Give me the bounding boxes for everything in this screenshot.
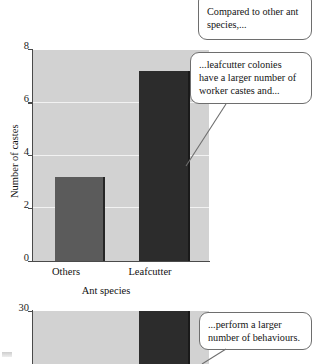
- ytick-label-2: 2: [24, 200, 29, 211]
- callout-behaviours-line-2: number of behaviours.: [208, 331, 304, 344]
- callout-behaviours-tail: [188, 348, 228, 364]
- behaviours-chart: 30: [0, 300, 212, 364]
- cropped-label-fragment: [2, 352, 12, 357]
- ytick-label-4: 4: [24, 147, 29, 158]
- callout-worker-castes: ...leafcutter colonies have a larger num…: [190, 52, 312, 104]
- behaviours-plot-area: [33, 311, 209, 364]
- callout-behaviours-line-1: ...perform a larger: [208, 318, 304, 331]
- callout-worker-castes-line-3: worker castes and...: [199, 84, 304, 97]
- callout-worker-castes-line-1: ...leafcutter colonies: [199, 58, 304, 71]
- callout-compared-line-1: Compared to other ant: [207, 5, 304, 18]
- callout-compared: Compared to other ant species,...: [198, 0, 312, 40]
- callout-worker-castes-tail: [178, 102, 228, 170]
- bar-leafcutter-behaviours: [139, 311, 190, 364]
- behaviours-y-axis: 30: [32, 310, 33, 364]
- callout-compared-line-2: species,...: [207, 18, 304, 31]
- castes-y-axis-title: Number of castes: [9, 125, 20, 198]
- ytick-label-30: 30: [19, 303, 30, 314]
- callout-behaviours: ...perform a larger number of behaviours…: [199, 312, 312, 350]
- castes-x-axis-title: Ant species: [0, 285, 212, 296]
- xtick-label-leafcutter: Leafcutter: [112, 266, 188, 277]
- ytick-label-6: 6: [24, 94, 29, 105]
- figure-ant-species-charts: 8 6 4 2 0 Number of castes Others Leafcu…: [0, 0, 312, 364]
- castes-x-axis: [32, 261, 210, 262]
- callout-worker-castes-line-2: have a larger number of: [199, 71, 304, 84]
- ytick-label-0: 0: [24, 253, 29, 264]
- ytick-label-8: 8: [24, 41, 29, 52]
- castes-y-axis: 8 6 4 2 0: [32, 49, 33, 262]
- bar-others: [55, 177, 105, 261]
- xtick-label-others: Others: [34, 266, 98, 277]
